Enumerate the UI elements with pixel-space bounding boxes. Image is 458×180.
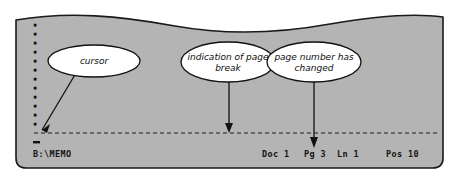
callout-page-number[interactable]: page number has changed [267, 42, 361, 82]
callout-cursor-label: cursor [80, 56, 110, 66]
callout-page-number-label-line1: page number has [273, 52, 354, 62]
callout-cursor[interactable]: cursor [48, 45, 140, 77]
callout-page-number-bubble[interactable] [267, 42, 361, 82]
callout-page-number-label-line2: changed [295, 63, 334, 73]
callout-page-break-label-line1: indication of page [188, 52, 269, 62]
callout-page-break[interactable]: indication of page break [181, 42, 275, 82]
figure-root: ▪ ▪ ▪ ▪ ▪ ▪ ▪ ▪ ▪ ▪ ▪ ▪ B:\MEMO Doc 1 Pg… [0, 0, 458, 180]
callout-page-break-bubble[interactable] [181, 42, 275, 82]
callout-page-break-label-line2: break [215, 63, 241, 73]
callout-balloons-layer: cursor indication of page break page num… [0, 0, 458, 180]
